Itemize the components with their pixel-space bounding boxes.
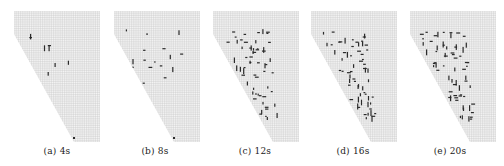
caption-d: (d) 16s [303,146,403,156]
panel-a [14,11,100,143]
mesh-plot [213,11,299,143]
mesh-plot [14,11,100,143]
mesh-plot [114,11,200,143]
panel-d [311,11,397,143]
panel-b [114,11,200,143]
mesh-plot [311,11,397,143]
caption-b: (b) 8s [105,146,205,156]
caption-e: (e) 20s [400,146,500,156]
mesh-plot [410,11,496,143]
caption-c: (c) 12s [205,146,305,156]
panel-c [213,11,299,143]
panel-e [410,11,496,143]
caption-a: (a) 4s [7,146,107,156]
